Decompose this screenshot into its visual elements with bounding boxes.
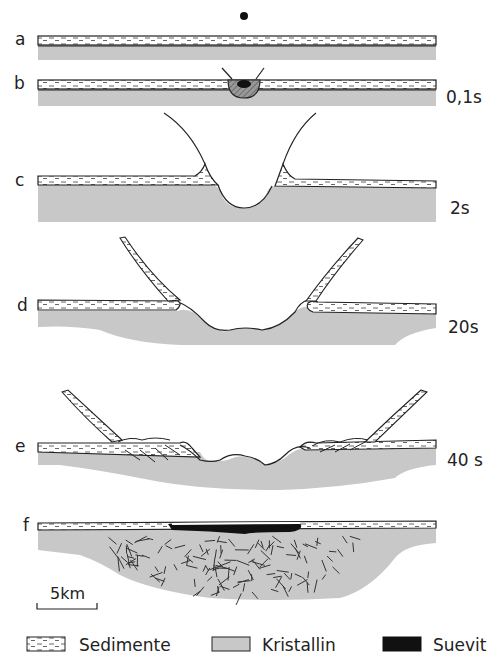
ejecta-flap-right [306, 238, 363, 301]
stage-label-c: c [15, 170, 24, 190]
suevite-swatch [383, 637, 421, 651]
stage-b: b 0,1s [14, 68, 482, 107]
impactor [240, 12, 248, 20]
sediment-left [38, 164, 218, 185]
time-label-c: 2s [450, 198, 470, 218]
crater-fill-surface [172, 523, 300, 524]
scale-bar-label: 5km [50, 584, 85, 603]
scale-bar-line [37, 603, 97, 609]
legend-label-suevite: Suevit [433, 635, 487, 655]
sediment-right [275, 164, 436, 188]
stage-label-d: d [17, 295, 28, 315]
crystalline-body [38, 528, 436, 600]
stage-d: d 20s [17, 237, 479, 345]
sediment-left [38, 300, 180, 310]
ejecta-flap-left [62, 390, 122, 442]
ejecta-flap-right [365, 390, 427, 442]
ejecta-right [256, 68, 264, 79]
stage-label-f: f [23, 515, 30, 535]
stage-label-a: a [15, 29, 25, 49]
scale-bar: 5km [37, 584, 97, 609]
time-label-b: 0,1s [446, 87, 482, 107]
fracture-mark [216, 568, 228, 569]
time-label-d: 20s [448, 317, 479, 337]
crater-formation-diagram: a b 0,1s c 20s 2s d 20s [0, 0, 501, 669]
ejecta-curtain-left [164, 113, 205, 164]
ejecta-left [222, 68, 232, 79]
legend-label-crystalline: Kristallin [262, 635, 336, 655]
legend-item-suevite: Suevit [383, 635, 487, 655]
sediments-swatch [27, 637, 65, 651]
sediment-right [307, 301, 436, 314]
crystalline-layer [38, 46, 436, 60]
ejecta-flap-left [120, 237, 180, 301]
legend-item-sediments: Sedimente [27, 635, 171, 655]
stage-c: c 20s 2s [15, 113, 470, 222]
stage-e: e 40 s [15, 390, 483, 490]
impactor-core [237, 80, 251, 88]
crystalline-swatch [212, 637, 250, 651]
ejecta-curtain-right [283, 113, 316, 164]
legend-label-sediments: Sedimente [79, 635, 171, 655]
sediment-layer [38, 36, 436, 45]
fracture-mark [329, 551, 336, 552]
crystalline-body [38, 185, 436, 222]
legend: Sedimente Kristallin Suevit [27, 635, 487, 655]
time-label-e: 40 s [447, 450, 483, 470]
legend-item-crystalline: Kristallin [212, 635, 336, 655]
stage-label-b: b [14, 73, 25, 93]
stage-label-e: e [15, 436, 25, 456]
stage-a: a [15, 12, 436, 60]
